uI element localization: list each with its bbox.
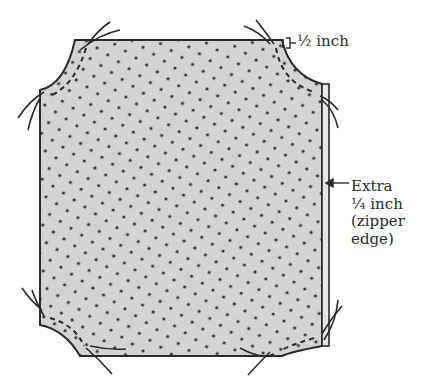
zipper-edge-label-line-4: edge): [351, 231, 405, 249]
zipper-edge-label-line-2: ¼ inch: [351, 196, 405, 214]
zipper-edge-label: Extra ¼ inch (zipper edge): [351, 178, 405, 248]
seam-allowance-bracket-icon: [286, 38, 296, 48]
zipper-edge-label-line-3: (zipper: [351, 213, 405, 231]
zipper-edge-strip: [322, 84, 329, 346]
zipper-edge-label-line-1: Extra: [351, 178, 405, 196]
seam-allowance-label: ½ inch: [297, 33, 349, 50]
